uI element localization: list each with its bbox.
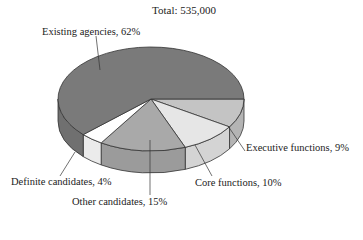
label-other-candidates: Other candidates, 15% (72, 196, 167, 208)
label-existing-agencies: Existing agencies, 62% (42, 26, 140, 38)
label-definite-candidates: Definite candidates, 4% (11, 176, 112, 188)
label-core-functions: Core functions, 10% (195, 177, 282, 189)
label-executive-functions: Executive functions, 9% (246, 142, 349, 154)
